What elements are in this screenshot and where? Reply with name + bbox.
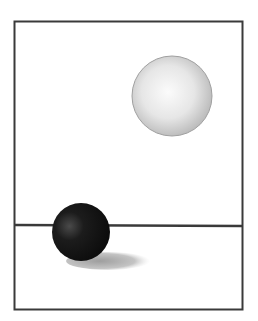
horizon-line: [14, 225, 242, 226]
light-sphere: [132, 56, 212, 136]
sketch-canvas: [0, 0, 258, 321]
dark-sphere: [52, 203, 110, 261]
